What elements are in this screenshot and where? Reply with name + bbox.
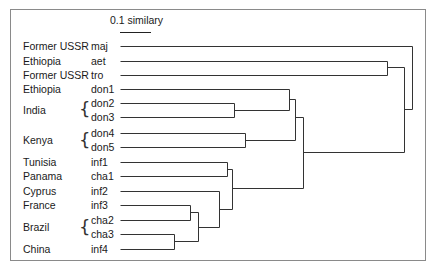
dendrogram-tree	[0, 0, 433, 269]
